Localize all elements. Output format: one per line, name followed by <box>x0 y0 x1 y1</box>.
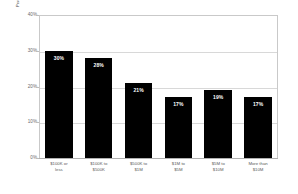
x-label-2: $100K to $500K <box>79 161 119 187</box>
x-label-3-line2: $1M <box>120 167 158 173</box>
bar-value-6: 17% <box>244 101 271 107</box>
y-tick-30: 30% <box>22 51 37 57</box>
bar-slot-2: 28% <box>79 15 119 158</box>
bar-500k-to-1m[interactable]: 21% <box>125 83 152 158</box>
bar-slot-5: 19% <box>198 15 238 158</box>
bar-1m-to-5m[interactable]: 17% <box>165 97 192 158</box>
x-axis-baseline <box>39 158 278 159</box>
bar-slot-3: 21% <box>119 15 159 158</box>
bar-slot-4: 17% <box>158 15 198 158</box>
x-label-6-line2: $10M <box>239 167 277 173</box>
y-tick-0: 0% <box>22 158 37 164</box>
bar-chart-figure: Percent of project FTE dedicated to CM 4… <box>0 0 298 194</box>
bar-value-1: 30% <box>45 55 72 61</box>
x-label-3: $500K to $1M <box>119 161 159 187</box>
y-tick-label-20: 20% <box>22 84 37 90</box>
bar-slot-6: 17% <box>238 15 278 158</box>
bar-100k-to-500k[interactable]: 28% <box>85 58 112 158</box>
x-label-5: $5M to $10M <box>198 161 238 187</box>
bar-value-2: 28% <box>85 62 112 68</box>
y-tick-10: 10% <box>22 122 37 128</box>
y-tick-label-0: 0% <box>22 155 37 161</box>
x-label-5-line2: $10M <box>199 167 237 173</box>
x-label-4-line2: $5M <box>159 167 197 173</box>
y-tick-40: 40% <box>22 15 37 21</box>
y-tick-label-30: 30% <box>22 48 37 54</box>
bar-100k-or-less[interactable]: 30% <box>45 51 72 158</box>
bar-value-4: 17% <box>165 101 192 107</box>
bar-value-3: 21% <box>125 87 152 93</box>
bar-5m-to-10m[interactable]: 19% <box>204 90 231 158</box>
y-tick-label-40: 40% <box>22 12 37 18</box>
x-label-6: More than $10M <box>238 161 278 187</box>
bar-more-than-10m[interactable]: 17% <box>244 97 271 158</box>
bars-layer: 30% 28% 21% 17% 19% 17% <box>39 15 278 158</box>
x-label-1: $100K or less <box>39 161 79 187</box>
x-label-1-line2: less <box>40 167 78 173</box>
bar-value-5: 19% <box>204 94 231 100</box>
x-label-4: $1M to $5M <box>158 161 198 187</box>
x-label-2-line2: $500K <box>80 167 118 173</box>
x-axis-labels: $100K or less $100K to $500K $500K to $1… <box>39 161 278 187</box>
y-tick-20: 20% <box>22 87 37 93</box>
y-tick-label-10: 10% <box>22 119 37 125</box>
bar-slot-1: 30% <box>39 15 79 158</box>
